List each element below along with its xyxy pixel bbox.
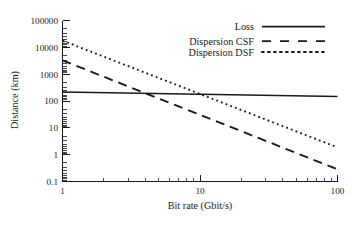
chart-figure: 100000 10000 1000 100 10 1 0.1 1 10 100 …	[0, 0, 352, 226]
y-tick-label: 0.1	[47, 177, 59, 187]
series-line-dispersion-csf	[63, 60, 338, 169]
y-tick-labels: 100000 10000 1000 100 10 1 0.1	[30, 16, 58, 187]
x-axis-ticks	[63, 175, 338, 182]
legend-label-dispersion-dsf: Dispersion DSF	[189, 47, 255, 58]
series-line-loss	[63, 92, 338, 96]
y-tick-label: 1000	[40, 70, 59, 80]
y-tick-label: 10000	[35, 43, 58, 53]
y-axis-ticks	[63, 21, 70, 182]
x-tick-label: 10	[195, 186, 205, 196]
y-tick-label: 1	[53, 150, 58, 160]
y-tick-label: 100000	[30, 16, 58, 26]
legend-label-dispersion-csf: Dispersion CSF	[189, 36, 254, 47]
legend-label-loss: Loss	[235, 21, 254, 32]
series-group	[63, 41, 338, 170]
y-tick-label: 100	[44, 96, 58, 106]
y-axis-title: Distance (km)	[9, 71, 21, 129]
x-tick-label: 100	[331, 186, 345, 196]
x-tick-labels: 1 10 100	[60, 186, 345, 196]
y-tick-label: 10	[49, 123, 59, 133]
chart-legend: Loss Dispersion CSF Dispersion DSF	[189, 21, 325, 58]
chart-canvas: 100000 10000 1000 100 10 1 0.1 1 10 100 …	[0, 0, 352, 226]
x-tick-label: 1	[60, 186, 65, 196]
x-axis-title: Bit rate (Gbit/s)	[168, 200, 233, 212]
